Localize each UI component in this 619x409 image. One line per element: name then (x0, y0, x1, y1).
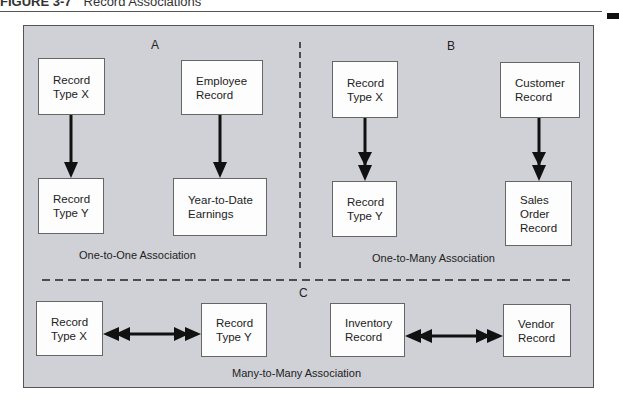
arrow-a2 (213, 115, 227, 178)
record-box-c-vendor-record: VendorRecord (503, 304, 571, 357)
record-box-b-customer-record: CustomerRecord (500, 62, 580, 118)
record-box-a-employee-record: EmployeeRecord (181, 60, 263, 115)
arrow-c2 (405, 329, 503, 343)
record-box-b-record-type-x: RecordType X (332, 61, 398, 118)
record-box-b-sales-order-record: SalesOrderRecord (505, 181, 572, 246)
record-box-b-record-type-y: RecordType Y (332, 181, 397, 237)
arrow-a1 (64, 115, 78, 178)
arrow-b2 (532, 118, 546, 181)
arrow-b1 (358, 118, 372, 181)
caption-one-to-one: One-to-One Association (79, 249, 196, 261)
caption-many-to-many: Many-to-Many Association (232, 367, 361, 379)
record-box-c-inventory-record: InventoryRecord (330, 303, 405, 357)
section-label-a: A (151, 38, 159, 52)
record-box-a-year-to-date-earnings: Year-to-DateEarnings (173, 178, 267, 236)
record-box-c-record-type-y: RecordType Y (201, 303, 267, 357)
section-label-c: C (299, 286, 308, 300)
section-label-b: B (447, 39, 455, 53)
arrow-c1 (103, 327, 201, 341)
record-box-a-record-type-y: RecordType Y (38, 178, 104, 234)
caption-one-to-many: One-to-Many Association (372, 252, 495, 264)
record-box-a-record-type-x: RecordType X (38, 58, 105, 115)
record-box-c-record-type-x: RecordType X (36, 301, 103, 356)
